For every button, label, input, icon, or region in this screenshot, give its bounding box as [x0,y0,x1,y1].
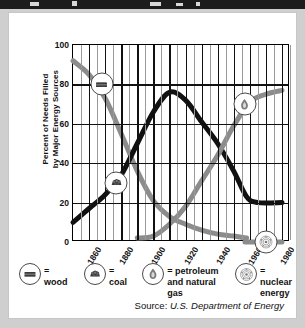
gridline-vertical-minor [161,45,162,240]
header-text-fragment [176,3,183,6]
legend-item-coal: = coal [84,262,128,288]
atom-icon [235,263,257,285]
y-axis-tick-label: 100 [55,40,69,50]
legend-label-nuclear: = nuclear energy [260,262,292,299]
legend-label-petroleum: = petroleum and natural gas [167,262,222,299]
y-axis-tick-label: 20 [60,198,69,208]
source-label: Source: [135,300,168,311]
gridline-vertical-minor [258,45,259,240]
gridline-vertical [250,45,251,240]
legend-label-wood: = wood [44,262,68,288]
header-text-fragment [30,2,39,6]
gridline-horizontal [73,163,288,164]
wood-log-icon [19,263,41,285]
gridline-vertical-minor [274,45,275,240]
header-text-fragment [196,2,200,6]
gridline-vertical-minor [145,45,146,240]
gridline-vertical-minor [194,45,195,240]
series-marker-wood [90,73,113,96]
y-axis-tick-label: 0 [64,237,69,247]
legend-item-petroleum: = petroleum and natural gas [142,262,222,299]
gridline-vertical-minor [290,45,291,240]
gridline-vertical [153,45,154,240]
flame-icon [142,263,164,285]
gridline-vertical-minor [177,45,178,240]
legend: = wood = coal [15,262,292,294]
gridline-vertical [282,45,283,240]
gridline-vertical [121,45,122,240]
source-note: Source: U.S. Department of Energy [9,300,284,311]
gridline-vertical [234,45,235,240]
y-axis-tick-label: 40 [60,158,69,168]
y-axis-tick-label: 60 [60,119,69,129]
series-marker-coal [105,171,128,194]
y-axis-title-line1: Percent of Needs Filled [41,44,51,194]
gridline-vertical [169,45,170,240]
series-marker-petroleum [233,93,256,116]
source-value: U.S. Department of Energy [170,300,284,311]
gridline-vertical [202,45,203,240]
gridline-vertical-minor [81,45,82,240]
legend-item-wood: = wood [19,262,68,288]
gridline-vertical [266,45,267,240]
y-axis-title: Percent of Needs Filled by Major Energy … [41,44,61,194]
gridline-vertical-minor [129,45,130,240]
header-text-fragment [150,2,161,6]
legend-item-nuclear: = nuclear energy [235,262,292,299]
gridline-vertical [137,45,138,240]
y-axis-tick-label: 80 [60,79,69,89]
cropped-header-strip [0,0,305,9]
header-text-fragment [72,1,77,6]
chart-card: Percent of Needs Filled by Major Energy … [8,12,297,319]
legend-label-coal: = coal [109,262,128,288]
gridline-vertical-minor [226,45,227,240]
series-marker-nuclear [254,231,277,254]
gridline-vertical [89,45,90,240]
coal-lumps-icon [84,263,106,285]
plot-area: 0204060801001860188019001920194019601980 [72,44,289,241]
gridline-horizontal [73,203,288,204]
gridline-horizontal [73,124,288,125]
gridline-vertical [186,45,187,240]
gridline-vertical-minor [113,45,114,240]
gridline-vertical [218,45,219,240]
gridline-vertical-minor [242,45,243,240]
gridline-vertical-minor [210,45,211,240]
